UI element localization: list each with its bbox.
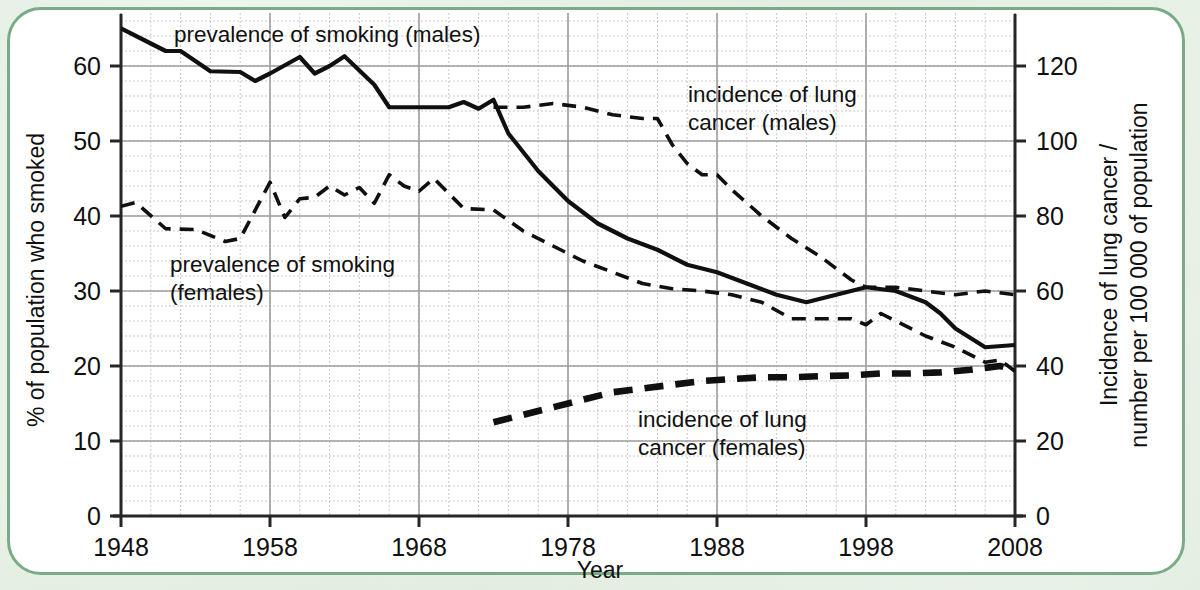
axis-tick-labels: 1948195819681978198819982008010203040506… xyxy=(73,52,1078,561)
x-axis-title: Year xyxy=(577,557,624,583)
chart-plot-area: 1948195819681978198819982008010203040506… xyxy=(0,0,1200,590)
y-right-tick-label: 120 xyxy=(1036,52,1078,80)
y-right-tick-label: 60 xyxy=(1036,277,1064,305)
y-right-tick-label: 0 xyxy=(1036,502,1050,530)
y-right-tick-label: 80 xyxy=(1036,202,1064,230)
x-tick-label: 1998 xyxy=(838,533,894,561)
y-right-tick-label: 100 xyxy=(1036,127,1078,155)
y-axis-left-title: % of population who smoked xyxy=(23,133,49,427)
x-tick-label: 1948 xyxy=(93,533,149,561)
line-chart: 1948195819681978198819982008010203040506… xyxy=(0,0,1200,590)
x-tick-label: 1988 xyxy=(689,533,745,561)
label-lung-males-line1: incidence of lung xyxy=(688,82,857,107)
y-left-tick-label: 60 xyxy=(73,52,101,80)
label-lung-females-line1: incidence of lung xyxy=(638,407,807,432)
label-lung-females-line2: cancer (females) xyxy=(638,435,806,460)
y-left-tick-label: 20 xyxy=(73,352,101,380)
x-tick-label: 2008 xyxy=(987,533,1043,561)
x-tick-label: 1968 xyxy=(391,533,447,561)
x-tick-label: 1958 xyxy=(242,533,298,561)
y-left-tick-label: 30 xyxy=(73,277,101,305)
y-left-tick-label: 0 xyxy=(87,502,101,530)
y-axis-right-title-line2: number per 100 000 of population xyxy=(1126,102,1152,447)
y-axis-right-title-line1: Incidence of lung cancer / xyxy=(1096,143,1122,406)
y-left-tick-label: 40 xyxy=(73,202,101,230)
label-smoking-females-line2: (females) xyxy=(170,280,264,305)
label-lung-males-line2: cancer (males) xyxy=(688,110,837,135)
y-left-tick-label: 50 xyxy=(73,127,101,155)
figure-root: 1948195819681978198819982008010203040506… xyxy=(0,0,1200,590)
y-right-tick-label: 20 xyxy=(1036,427,1064,455)
label-smoking-males: prevalence of smoking (males) xyxy=(174,22,480,47)
y-right-tick-label: 40 xyxy=(1036,352,1064,380)
label-smoking-females-line1: prevalence of smoking xyxy=(170,252,395,277)
y-left-tick-label: 10 xyxy=(73,427,101,455)
